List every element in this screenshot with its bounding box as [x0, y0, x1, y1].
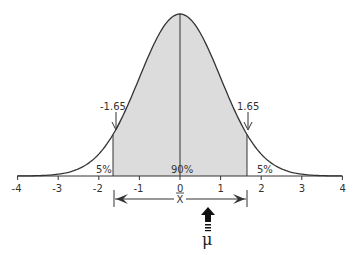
- right-critical-label: 1.65: [237, 101, 259, 112]
- right-tail-label: 5%: [257, 164, 273, 175]
- mu-arrow-dash-2: [205, 227, 211, 229]
- mu-label: μ: [202, 230, 212, 249]
- x-tick-label: -3: [52, 183, 62, 194]
- mu-arrow-dash-1: [205, 224, 211, 226]
- x-tick-label: 1: [218, 183, 224, 194]
- center-area-label: 90%: [171, 164, 193, 175]
- left-critical-label: -1.65: [100, 101, 126, 112]
- x-tick-label: 2: [258, 183, 264, 194]
- normal-distribution-chart: -4-3-2-101234 -1.65 1.65 5% 90% 5% X μ: [0, 0, 355, 255]
- x-axis-ticks: -4-3-2-101234: [12, 176, 346, 194]
- left-tail-label: 5%: [96, 164, 112, 175]
- mu-arrow-icon: [201, 207, 215, 222]
- x-tick-label: 0: [177, 183, 183, 194]
- x-tick-label: -1: [133, 183, 143, 194]
- x-tick-label: 4: [339, 183, 345, 194]
- x-tick-label: 3: [299, 183, 305, 194]
- x-tick-label: -4: [12, 183, 22, 194]
- xbar-label: X: [177, 194, 184, 205]
- x-tick-label: -2: [93, 183, 103, 194]
